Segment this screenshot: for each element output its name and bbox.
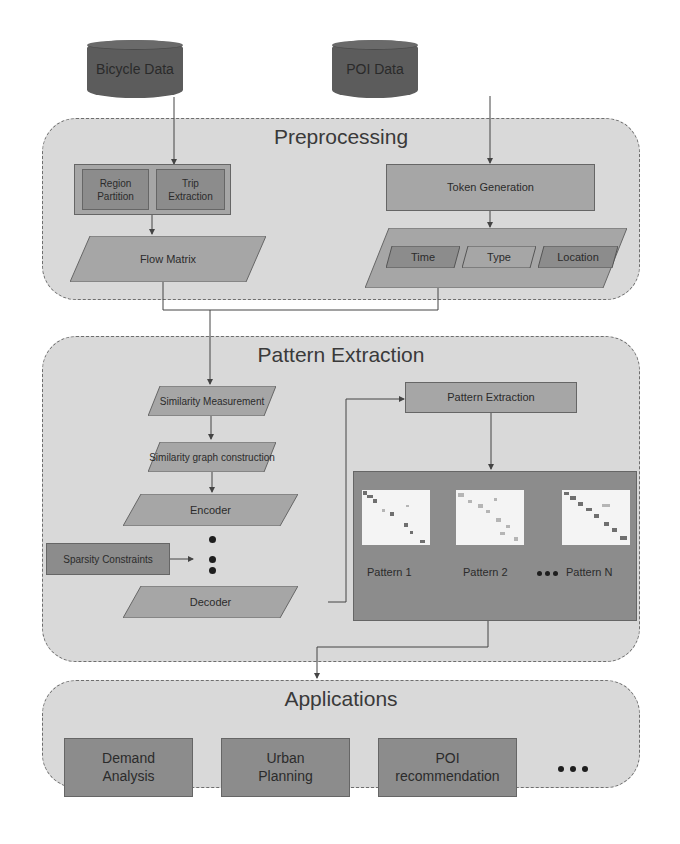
pattern-ellipsis-dot: [545, 571, 550, 576]
similarity-measurement-step: Similarity Measurement: [148, 386, 276, 416]
app-urban-planning: Urban Planning: [221, 738, 350, 797]
token-type: Type: [462, 246, 536, 268]
region-partition-box: Region Partition: [82, 169, 149, 210]
encoder-step: Encoder: [123, 494, 298, 526]
trip-extraction-box: Trip Extraction: [156, 169, 225, 210]
app-demand-analysis: Demand Analysis: [64, 738, 193, 797]
flow-matrix-parallelogram: Flow Matrix: [70, 236, 266, 282]
token-generation-box: Token Generation: [386, 164, 595, 211]
similarity-graph-step: Similarity graph construction: [148, 442, 276, 472]
preprocessing-title: Preprocessing: [43, 125, 639, 149]
poi-data-label: POI Data: [346, 61, 404, 77]
sparsity-constraints-box: Sparsity Constraints: [46, 543, 170, 575]
applications-ellipsis-dot: [570, 766, 576, 772]
pattern-1-label: Pattern 1: [367, 566, 412, 578]
poi-data-cylinder: POI Data: [332, 40, 418, 98]
ellipsis-dot: [209, 556, 216, 563]
applications-ellipsis-dot: [582, 766, 588, 772]
pattern-ellipsis-dot: [553, 571, 558, 576]
pattern-n-label: Pattern N: [566, 566, 612, 578]
bicycle-data-cylinder: Bicycle Data: [87, 40, 183, 98]
token-time: Time: [386, 246, 460, 268]
flow-matrix-label: Flow Matrix: [140, 253, 196, 265]
pattern-2-label: Pattern 2: [463, 566, 508, 578]
pattern-ellipsis-dot: [537, 571, 542, 576]
app-poi-recommendation: POI recommendation: [378, 738, 517, 797]
pattern-extraction-title: Pattern Extraction: [43, 343, 639, 367]
ellipsis-dot: [209, 536, 216, 543]
applications-ellipsis-dot: [558, 766, 564, 772]
pattern-extraction-box: Pattern Extraction: [405, 382, 577, 413]
pattern-1-heatmap: [362, 490, 430, 545]
token-location: Location: [538, 246, 618, 268]
bicycle-data-label: Bicycle Data: [96, 61, 174, 77]
decoder-step: Decoder: [123, 586, 298, 618]
ellipsis-dot: [209, 567, 216, 574]
pattern-n-heatmap: [562, 490, 630, 545]
applications-title: Applications: [43, 687, 639, 711]
pattern-2-heatmap: [456, 490, 524, 545]
